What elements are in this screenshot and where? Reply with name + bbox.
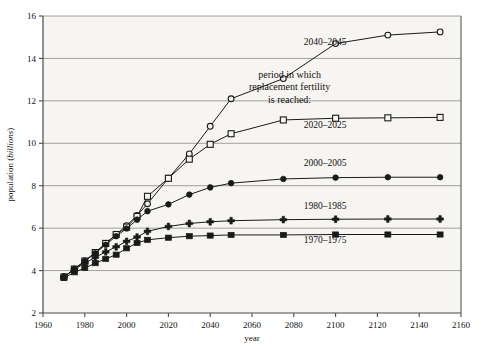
series-label-2040-2045: 2040–2045 — [304, 37, 347, 47]
ytick-label-14: 14 — [27, 54, 37, 64]
ytick-label-2: 2 — [32, 308, 37, 318]
xtick-label-2000: 2000 — [118, 320, 137, 330]
xtick-label-2040: 2040 — [201, 320, 220, 330]
xtick-label-2140: 2140 — [410, 320, 429, 330]
marker-2040-2045-2050 — [228, 96, 234, 102]
ytick-label-16: 16 — [27, 11, 37, 21]
x-axis-title: year — [244, 333, 260, 343]
marker-2020-2025-2150 — [437, 114, 443, 120]
marker-2040-2045-2125 — [385, 32, 391, 38]
marker-2020-2025-2125 — [385, 115, 391, 121]
xtick-label-1960: 1960 — [34, 320, 53, 330]
marker-2000-2005-2100 — [333, 175, 339, 181]
series-label-1970-1975: 1970–1975 — [304, 235, 347, 245]
marker-2000-2005-2150 — [437, 174, 443, 180]
marker-1970-1975-1990 — [103, 256, 109, 261]
xtick-label-2100: 2100 — [327, 320, 346, 330]
series-label-1980-1985: 1980–1985 — [304, 201, 347, 211]
marker-1970-1975-2005 — [134, 240, 140, 245]
annotation-line-2: is reached: — [268, 94, 311, 105]
series-label-2020-2025: 2020–2025 — [304, 120, 347, 130]
marker-2000-2005-2030 — [187, 192, 193, 198]
ytick-label-12: 12 — [27, 96, 36, 106]
annotation-line-1: replacement fertility — [249, 81, 330, 92]
marker-2000-2005-2075 — [281, 176, 287, 182]
marker-2020-2025-2050 — [228, 131, 234, 137]
xtick-label-2060: 2060 — [243, 320, 262, 330]
ytick-label-6: 6 — [32, 223, 37, 233]
xtick-label-2080: 2080 — [285, 320, 304, 330]
marker-1970-1975-2125 — [385, 232, 391, 237]
y-axis-title: population (billions) — [5, 128, 15, 202]
ytick-label-8: 8 — [32, 181, 37, 191]
marker-2040-2045-2040 — [207, 123, 213, 129]
marker-2040-2045-2150 — [437, 29, 443, 35]
marker-2040-2045-2010 — [145, 201, 151, 207]
marker-2020-2025-2020 — [165, 175, 171, 181]
marker-2020-2025-2010 — [145, 193, 151, 199]
series-label-2000-2005: 2000–2005 — [304, 158, 347, 168]
marker-1970-1975-2000 — [124, 246, 130, 251]
annotation-line-0: period in which — [258, 69, 321, 80]
xtick-label-2120: 2120 — [368, 320, 387, 330]
ytick-label-4: 4 — [32, 266, 37, 276]
plot-background — [43, 16, 461, 313]
marker-1970-1975-2050 — [228, 232, 234, 237]
marker-1970-1975-1985 — [92, 261, 98, 266]
marker-2000-2005-2000 — [124, 226, 130, 232]
chart-canvas: 2468101214161960198020002020204020602080… — [0, 0, 482, 349]
marker-1970-1975-1970 — [61, 275, 67, 280]
population-projection-chart: 2468101214161960198020002020204020602080… — [0, 0, 482, 349]
marker-1970-1975-2075 — [280, 232, 286, 237]
marker-1970-1975-2010 — [145, 237, 151, 242]
marker-2000-2005-2010 — [145, 208, 151, 214]
marker-2000-2005-2050 — [228, 180, 234, 186]
marker-2000-2005-2020 — [166, 202, 172, 208]
marker-1970-1975-2150 — [437, 232, 443, 237]
marker-1970-1975-1975 — [71, 270, 77, 275]
marker-2000-2005-2040 — [207, 185, 213, 191]
marker-2020-2025-2075 — [280, 117, 286, 123]
ytick-label-10: 10 — [27, 138, 37, 148]
xtick-label-1980: 1980 — [76, 320, 95, 330]
marker-2000-2005-2005 — [134, 217, 140, 223]
xtick-label-2020: 2020 — [159, 320, 178, 330]
marker-2000-2005-1995 — [113, 233, 119, 239]
marker-1970-1975-2030 — [186, 234, 192, 239]
xtick-label-2160: 2160 — [452, 320, 471, 330]
marker-2000-2005-1990 — [103, 242, 109, 248]
marker-2000-2005-2125 — [385, 174, 391, 180]
marker-1970-1975-2040 — [207, 233, 213, 238]
marker-2020-2025-2040 — [207, 141, 213, 147]
marker-1970-1975-1995 — [113, 252, 119, 257]
marker-1970-1975-2020 — [165, 235, 171, 240]
marker-2020-2025-2030 — [186, 156, 192, 162]
marker-1970-1975-1980 — [82, 265, 88, 270]
